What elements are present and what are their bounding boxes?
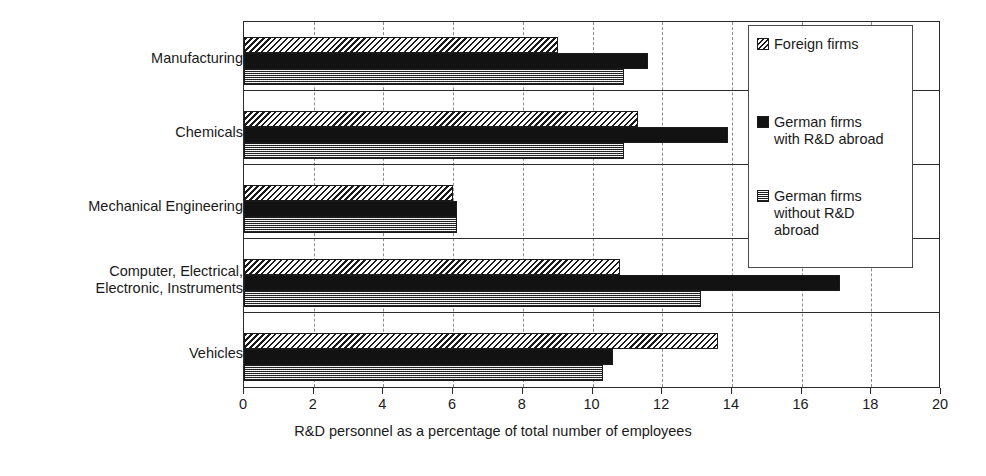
bar-computer-electrical-german-without-rd [244, 291, 701, 307]
legend-label-german-firms-without-rd-abroad: German firms without R&D abroad [774, 188, 862, 239]
bar-computer-electrical-german-with-rd [244, 275, 840, 291]
bar-mechanical-engineering-foreign-firms [244, 185, 453, 201]
bar-manufacturing-german-without-rd [244, 69, 624, 85]
category-label-mechanical-engineering: Mechanical Engineering [88, 198, 243, 215]
xtick-mark-8 [522, 388, 523, 394]
bar-manufacturing-foreign-firms [244, 37, 558, 53]
bar-vehicles-german-without-rd [244, 365, 603, 381]
xtick-mark-20 [940, 388, 941, 394]
legend-entry-foreign-firms: Foreign firms [757, 36, 859, 53]
bar-mechanical-engineering-german-with-rd [244, 201, 457, 217]
xtick-label-18: 18 [850, 396, 890, 412]
xtick-mark-10 [592, 388, 593, 394]
xtick-label-20: 20 [920, 396, 960, 412]
xtick-mark-16 [801, 388, 802, 394]
bar-mechanical-engineering-german-without-rd [244, 217, 457, 233]
xtick-mark-0 [243, 388, 244, 394]
xtick-label-0: 0 [223, 396, 263, 412]
category-label-chemicals: Chemicals [175, 124, 243, 141]
category-label-manufacturing: Manufacturing [151, 50, 243, 67]
bar-chemicals-german-without-rd [244, 143, 624, 159]
xtick-mark-14 [731, 388, 732, 394]
xtick-mark-12 [661, 388, 662, 394]
xtick-label-16: 16 [781, 396, 821, 412]
bar-vehicles-german-with-rd [244, 349, 613, 365]
xtick-mark-2 [313, 388, 314, 394]
category-label-vehicles: Vehicles [189, 345, 243, 362]
legend-swatch-hatched-icon [757, 38, 769, 50]
xtick-label-2: 2 [293, 396, 333, 412]
xtick-label-6: 6 [432, 396, 472, 412]
xtick-label-14: 14 [711, 396, 751, 412]
bar-chemicals-german-with-rd [244, 127, 728, 143]
legend-entry-german-firms-without-rd-abroad: German firms without R&D abroad [757, 188, 862, 239]
bar-manufacturing-german-with-rd [244, 53, 648, 69]
bar-vehicles-foreign-firms [244, 333, 718, 349]
x-axis-label: R&D personnel as a percentage of total n… [0, 423, 986, 439]
bar-chart: Manufacturing Chemicals Mechanical Engin… [0, 0, 986, 476]
gridline-14 [732, 22, 734, 387]
legend-swatch-gray-checker-icon [757, 190, 769, 202]
xtick-mark-4 [382, 388, 383, 394]
xtick-mark-18 [870, 388, 871, 394]
legend-label-foreign-firms: Foreign firms [774, 36, 859, 53]
xtick-mark-6 [452, 388, 453, 394]
xtick-label-8: 8 [502, 396, 542, 412]
legend-label-german-firms-with-rd-abroad: German firms with R&D abroad [774, 114, 884, 148]
category-label-computer-electrical: Computer, Electrical, Electronic, Instru… [96, 263, 243, 297]
group-separator [244, 312, 939, 313]
legend-swatch-solid-black-icon [757, 116, 769, 128]
xtick-label-12: 12 [641, 396, 681, 412]
legend-entry-german-firms-with-rd-abroad: German firms with R&D abroad [757, 114, 884, 148]
xtick-label-4: 4 [362, 396, 402, 412]
xtick-label-10: 10 [572, 396, 612, 412]
chart-legend: Foreign firms German firms with R&D abro… [748, 25, 913, 268]
bar-computer-electrical-foreign-firms [244, 259, 620, 275]
bar-chemicals-foreign-firms [244, 111, 638, 127]
